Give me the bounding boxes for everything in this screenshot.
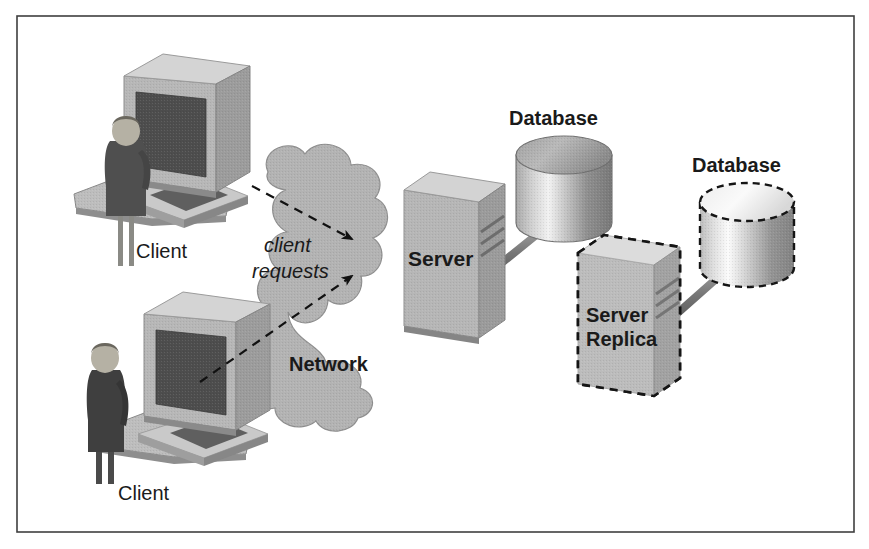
cloud-inner-label-line2: requests — [252, 260, 329, 282]
client-bottom-label: Client — [118, 482, 170, 504]
server-replica-label-line1: Server — [586, 304, 648, 326]
database-primary-label: Database — [509, 107, 598, 129]
database-primary[interactable] — [516, 136, 612, 242]
client-top-label: Client — [136, 240, 188, 262]
diagram-canvas: Client Client — [0, 0, 869, 549]
database-replica-label: Database — [692, 154, 781, 176]
network-architecture-diagram: Client Client — [0, 0, 869, 549]
server-label: Server — [408, 247, 473, 270]
server-replica-label-line2: Replica — [586, 328, 658, 350]
cloud-inner-label-line1: client — [264, 234, 312, 256]
database-replica[interactable] — [700, 183, 794, 287]
network-cloud-label: Network — [289, 353, 369, 375]
database-replica-top — [700, 183, 794, 221]
